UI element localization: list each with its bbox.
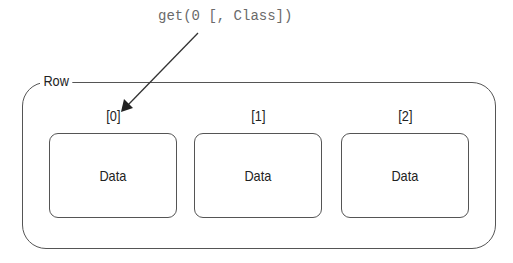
arrow-icon <box>0 0 513 263</box>
